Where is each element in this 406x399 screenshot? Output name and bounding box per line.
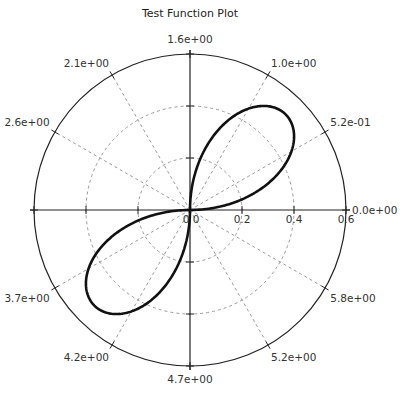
grid-spoke — [112, 210, 190, 345]
angular-tick-label: 1.0e+00 — [271, 57, 316, 69]
angular-tick-label: 0.0e+00 — [352, 204, 397, 216]
grid-spoke — [55, 132, 190, 210]
radial-tick-label: 0.6 — [338, 213, 355, 225]
radial-tick-label: 0.4 — [286, 213, 303, 225]
angular-tick-label: 4.7e+00 — [167, 373, 212, 385]
angular-tick-label: 5.2e+00 — [271, 351, 316, 363]
polar-chart: Test Function Plot 0.0e+005.2e-011.0e+00… — [0, 0, 406, 399]
angular-tick-label: 2.1e+00 — [64, 57, 109, 69]
angular-tick-label: 2.6e+00 — [4, 116, 49, 128]
radial-tick-labels: 00.20.40.60 — [183, 213, 355, 225]
angular-tick-label: 5.8e+00 — [330, 292, 375, 304]
grid-spoke — [190, 210, 268, 345]
grid-spoke — [112, 75, 190, 210]
radial-tick-label: 0.2 — [234, 213, 251, 225]
chart-title: Test Function Plot — [141, 7, 239, 20]
grid-spoke — [55, 210, 190, 288]
grid-spoke — [190, 75, 268, 210]
angular-tick-label: 5.2e-01 — [330, 116, 370, 128]
radial-tick-label: 0 — [193, 213, 200, 225]
grid-spoke — [190, 132, 325, 210]
angular-tick-label: 1.6e+00 — [167, 33, 212, 45]
angular-tick-label: 3.7e+00 — [4, 292, 49, 304]
angular-tick-label: 4.2e+00 — [64, 351, 109, 363]
grid-spoke — [190, 210, 325, 288]
